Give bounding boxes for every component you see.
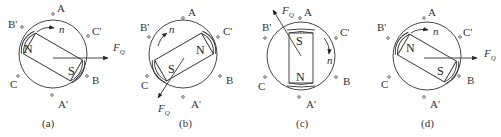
speed-label: n (433, 25, 439, 37)
terminal-C-prime (335, 37, 338, 40)
force-label: FQ (112, 41, 125, 56)
north-pole-label: N (196, 43, 205, 57)
panel-caption: (d) (421, 117, 434, 130)
terminal-C (17, 75, 20, 78)
force-label: FQ (157, 102, 170, 117)
label-C-prime: C' (223, 25, 232, 37)
label-A-prime: A' (191, 98, 201, 110)
speed-label: n (59, 23, 65, 35)
label-A-prime: A' (306, 98, 316, 110)
terminal-B-prime (387, 37, 390, 40)
label-B: B (226, 74, 233, 86)
terminal-B (458, 75, 461, 78)
label-A: A (57, 2, 65, 14)
label-B: B (467, 74, 474, 86)
rotation-arrow-icon (37, 28, 54, 33)
north-pole-label: N (24, 42, 33, 56)
terminal-A (52, 13, 55, 16)
south-pole-label: S (296, 34, 303, 48)
panel-a: N S n FQ A B' C' C B A' (a) (8, 2, 125, 130)
label-C: C (381, 78, 388, 90)
label-C: C (10, 78, 17, 90)
label-B: B (92, 74, 99, 86)
label-A-prime: A' (430, 98, 440, 110)
terminal-A-prime (423, 96, 426, 99)
terminal-B-prime (264, 37, 267, 40)
label-B: B (343, 75, 350, 87)
terminal-C-prime (87, 35, 90, 38)
label-A: A (188, 6, 196, 18)
force-label: FQ (483, 47, 496, 62)
label-A-prime: A' (58, 98, 68, 110)
terminal-A-prime (298, 96, 301, 99)
label-B-prime: B' (140, 21, 149, 33)
speed-label: n (327, 54, 333, 66)
terminal-C (146, 75, 149, 78)
terminal-C (264, 76, 267, 79)
terminal-B (219, 75, 222, 78)
terminal-A (299, 17, 302, 20)
label-B-prime: B' (8, 18, 17, 30)
terminal-B-prime (21, 26, 24, 29)
stator-circle (393, 22, 461, 90)
motor-diagram-figure: N S n FQ A B' C' C B A' (a) N S (0, 0, 501, 137)
panel-caption: (c) (296, 117, 309, 130)
label-A: A (304, 6, 312, 18)
terminal-A-prime (51, 94, 54, 97)
label-B-prime: B' (377, 21, 386, 33)
label-A: A (428, 6, 436, 18)
terminal-A-prime (182, 96, 185, 99)
label-C-prime: C' (463, 26, 472, 38)
terminal-B (335, 76, 338, 79)
panel-caption: (a) (42, 117, 55, 130)
panel-c: S N n FQ A B' C' C B A' (c) (258, 4, 350, 130)
terminal-A (423, 17, 426, 20)
south-pole-label: S (437, 64, 444, 78)
label-C-prime: C' (340, 26, 349, 38)
force-label: FQ (281, 4, 294, 19)
north-pole-label: N (296, 70, 305, 84)
rotation-arrow-icon (158, 33, 167, 46)
rotation-arrow-icon (324, 38, 329, 54)
speed-label: n (169, 23, 175, 35)
panel-d: N S n FQ A B' C' C B A' (d) (377, 6, 496, 130)
panel-b: N S n FQ A B' C' C B A' (b) (140, 6, 233, 130)
stator-circle (149, 20, 217, 88)
label-C-prime: C' (92, 25, 101, 37)
terminal-C-prime (459, 36, 462, 39)
south-pole-label: S (68, 64, 75, 78)
terminal-B (86, 75, 89, 78)
label-C: C (141, 79, 148, 91)
terminal-C-prime (217, 36, 220, 39)
label-B-prime: B' (262, 21, 271, 33)
rotation-arrow-icon (411, 29, 428, 33)
panel-caption: (b) (179, 117, 192, 130)
terminal-A (182, 17, 185, 20)
label-C: C (258, 80, 265, 92)
terminal-B-prime (148, 36, 151, 39)
north-pole-label: N (406, 41, 415, 55)
